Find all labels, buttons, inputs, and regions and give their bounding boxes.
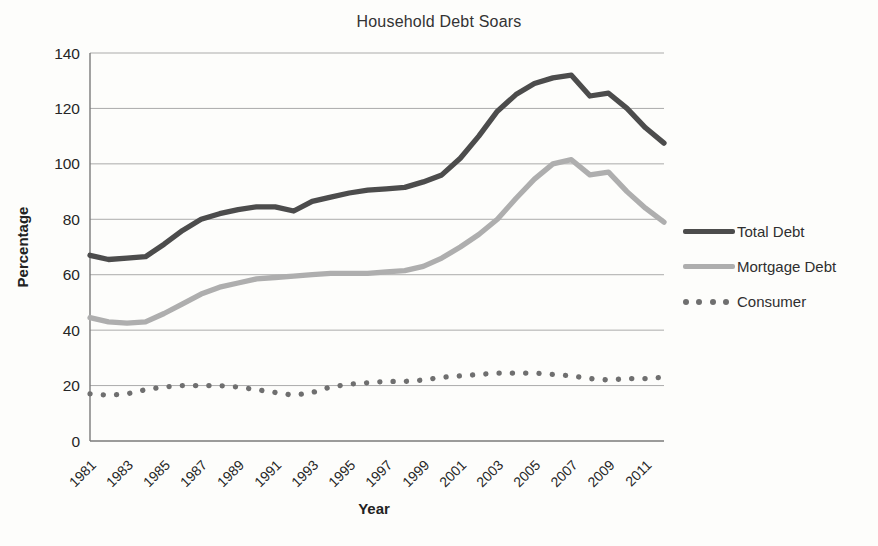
y-tick-label: 40 — [63, 322, 81, 339]
x-tick-label: 2003 — [473, 457, 506, 490]
consumer-dotted-line-swatch — [683, 299, 735, 305]
x-tick-label: 2011 — [622, 457, 655, 490]
legend-label-total-debt: Total Debt — [737, 223, 805, 240]
legend-dot — [683, 299, 689, 305]
legend-label-mortgage-debt: Mortgage Debt — [737, 258, 836, 275]
legend-item-mortgage-debt: Mortgage Debt — [683, 249, 836, 284]
x-tick-label: 1993 — [288, 457, 321, 490]
y-tick-label: 60 — [63, 266, 81, 283]
y-tick-label: 80 — [63, 211, 81, 228]
y-axis-title: Percentage — [14, 207, 31, 288]
y-tick-label: 120 — [54, 100, 80, 117]
total-debt-line-swatch — [683, 229, 735, 234]
x-tick-label: 1987 — [177, 457, 210, 490]
x-tick-label: 1997 — [362, 457, 395, 490]
x-tick-label: 2005 — [510, 457, 543, 490]
series-line-mortgage-debt — [90, 160, 664, 324]
legend-dot — [723, 299, 729, 305]
mortgage-debt-line-swatch — [683, 264, 735, 269]
x-tick-label: 1999 — [399, 457, 432, 490]
x-tick-label: 1981 — [66, 457, 99, 490]
household-debt-chart-figure: Household Debt Soars 0204060801001201401… — [0, 0, 878, 546]
x-tick-label: 1983 — [103, 457, 136, 490]
x-tick-label: 1991 — [251, 457, 284, 490]
y-tick-label: 140 — [54, 45, 80, 62]
legend-dot — [696, 299, 702, 305]
legend-item-total-debt: Total Debt — [683, 214, 836, 249]
legend-item-consumer: Consumer — [683, 284, 836, 319]
x-tick-label: 2007 — [547, 457, 580, 490]
y-tick-label: 20 — [63, 377, 81, 394]
x-tick-label: 2001 — [436, 457, 469, 490]
legend: Total Debt Mortgage Debt Consumer — [683, 214, 836, 319]
x-tick-label: 1989 — [214, 457, 247, 490]
y-tick-label: 0 — [71, 433, 80, 450]
legend-dot — [710, 299, 716, 305]
x-tick-label: 1995 — [325, 457, 358, 490]
series-line-consumer — [90, 373, 664, 395]
y-tick-label: 100 — [54, 155, 80, 172]
x-axis-title: Year — [358, 500, 390, 517]
x-tick-label: 2009 — [584, 457, 617, 490]
x-tick-label: 1985 — [140, 457, 173, 490]
legend-label-consumer: Consumer — [737, 293, 806, 310]
